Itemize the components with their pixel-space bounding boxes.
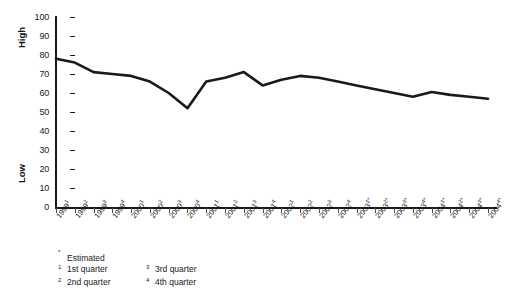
footnote-text: 3rd quarter (155, 264, 197, 276)
footnote-estimated-mark: * (58, 247, 67, 259)
series-path (56, 59, 488, 108)
footnote-text: 1st quarter (67, 264, 108, 276)
footnote-item: 3 3rd quarter (146, 264, 234, 277)
footnote-item: 2 2nd quarter (58, 277, 146, 290)
chart-figure: High Low 1009080706050403020100 19991199… (0, 0, 507, 302)
footnote-text: 4th quarter (155, 277, 196, 289)
footnote-row-2: 2 2nd quarter 4 4th quarter (58, 277, 234, 290)
footnote-mark: 1 (58, 262, 67, 274)
footnote-estimated-text: Estimated (67, 253, 105, 263)
footnote-block: *Estimated 1 1st quarter 3 3rd quarter 2… (58, 250, 234, 289)
footnote-mark: 2 (58, 275, 67, 287)
footnote-item: 4 4th quarter (146, 277, 234, 290)
footnote-mark: 3 (146, 262, 155, 274)
footnote-item: 1 1st quarter (58, 264, 146, 277)
footnote-text: 2nd quarter (67, 277, 110, 289)
footnote-mark: 4 (146, 275, 155, 287)
